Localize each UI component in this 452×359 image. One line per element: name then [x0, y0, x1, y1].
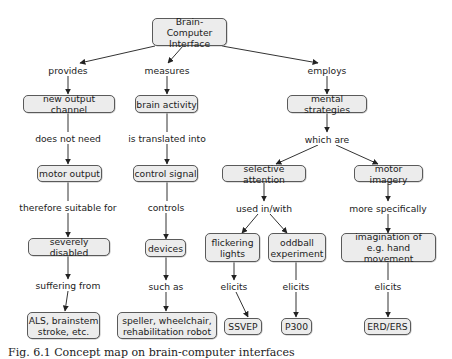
link-therefore-suitable-for: therefore suitable for — [18, 202, 117, 213]
link-more-specifically: more specifically — [348, 203, 428, 214]
node-erd-ers: ERD/ERS — [364, 318, 411, 335]
link-elicits-ssvep: elicits — [220, 281, 249, 292]
node-mental-strategies: mental strategies — [287, 95, 367, 113]
node-als-brainstem-stroke: ALS, brainstem stroke, etc. — [27, 312, 100, 339]
link-provides: provides — [47, 65, 88, 76]
link-which-are: which are — [304, 134, 351, 145]
node-brain-computer-interface: Brain-Computer Interface — [152, 18, 227, 46]
figure-caption: Fig. 6.1 Concept map on brain-computer i… — [8, 346, 295, 359]
node-motor-imagery: motor imagery — [354, 165, 423, 182]
link-such-as: such as — [148, 281, 185, 292]
node-flickering-lights: flickering lights — [205, 233, 260, 262]
link-elicits-erd-ers: elicits — [374, 281, 403, 292]
node-selective-attention: selective attention — [222, 165, 306, 182]
link-is-translated-into: is translated into — [127, 133, 207, 144]
node-severely-disabled: severely disabled — [28, 238, 110, 256]
link-measures: measures — [144, 65, 191, 76]
node-speller-wheelchair-robot: speller, wheelchair, rehabilitation robo… — [117, 312, 217, 339]
node-p300: P300 — [281, 318, 312, 335]
node-imagination-hand-movement: imagination of e.g. hand movement — [341, 233, 436, 262]
link-suffering-from: suffering from — [35, 280, 102, 291]
node-brain-activity: brain activity — [135, 95, 198, 113]
node-ssvep: SSVEP — [224, 318, 262, 335]
node-devices: devices — [145, 239, 186, 257]
node-new-output-channel: new output channel — [23, 95, 115, 113]
node-oddball-experiment: oddball experiment — [268, 233, 326, 262]
link-controls: controls — [147, 202, 186, 213]
node-control-signal: control signal — [133, 165, 198, 182]
node-motor-output: motor output — [37, 165, 102, 182]
link-elicits-p300: elicits — [282, 281, 311, 292]
link-employs: employs — [307, 65, 348, 76]
link-does-not-need: does not need — [34, 133, 102, 144]
link-used-in-with: used in/with — [235, 203, 293, 214]
